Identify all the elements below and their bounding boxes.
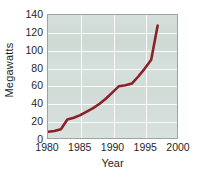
x-axis-tick-label: 1995 (134, 141, 157, 154)
y-axis-tick-label: 20 (31, 116, 43, 127)
y-axis-tick-label: 100 (25, 44, 43, 55)
x-axis-tick-label: 1980 (35, 141, 58, 154)
x-axis-title: Year (47, 157, 178, 169)
x-axis-tick-label: 2000 (166, 141, 189, 154)
y-axis-tick-labels: 020406080100120140 (16, 8, 46, 140)
y-axis-tick-label: 40 (31, 98, 43, 109)
x-axis-tick-label: 1990 (101, 141, 124, 154)
x-axis-tick-label: 1985 (68, 141, 91, 154)
series-line-megawatts (48, 26, 158, 132)
data-series-svg (48, 15, 177, 138)
y-axis-title-label: Megawatts (2, 43, 14, 98)
plot-area (47, 14, 178, 139)
line-chart-figure: Megawatts 020406080100120140 19801985199… (0, 0, 201, 182)
y-axis-tick-label: 60 (31, 80, 43, 91)
y-axis-title: Megawatts (0, 0, 16, 140)
x-axis-tick-labels: 19801985199019952000 (47, 141, 178, 155)
y-axis-tick-label: 80 (31, 62, 43, 73)
y-axis-tick-label: 140 (25, 9, 43, 20)
y-axis-tick-label: 120 (25, 27, 43, 38)
